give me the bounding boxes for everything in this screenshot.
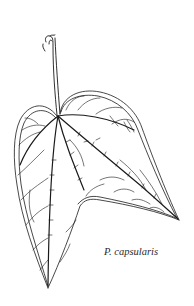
leaf-margin xyxy=(14,91,179,288)
vein-spines xyxy=(48,132,156,235)
main-veins xyxy=(20,115,178,286)
secondary-veins xyxy=(18,96,164,270)
petiole xyxy=(43,35,60,115)
leaf-illustration xyxy=(0,0,194,306)
species-caption: P. capsularis xyxy=(104,246,158,257)
